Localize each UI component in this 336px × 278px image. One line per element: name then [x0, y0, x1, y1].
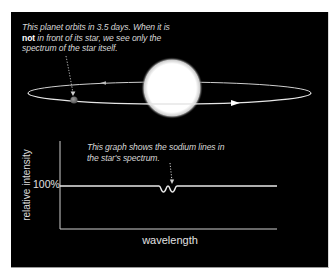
- orbit-arrow-back-icon: [100, 81, 106, 84]
- annotation-line: not in front of its star, we see only th…: [22, 33, 182, 44]
- annotation-line: This planet orbits in 3.5 days. When it …: [22, 22, 182, 33]
- annotation-line: spectrum of the star itself.: [22, 43, 182, 54]
- planet-orbit-annotation: This planet orbits in 3.5 days. When it …: [22, 22, 182, 54]
- y-axis-label: relative intensity: [21, 149, 32, 221]
- orbit-arrow-front-icon: [231, 100, 240, 106]
- y-tick-100-percent: 100%: [33, 178, 60, 190]
- annotation-line: This graph shows the sodium lines in: [87, 142, 237, 153]
- planet-pointer-arrow: [66, 56, 73, 93]
- emphasis-not: not: [22, 33, 35, 43]
- planet: [70, 96, 77, 103]
- annotation-line: the star's spectrum.: [87, 153, 237, 164]
- star: [141, 57, 203, 119]
- spectrum-line: [60, 186, 277, 192]
- sodium-lines-annotation: This graph shows the sodium lines in the…: [87, 142, 237, 163]
- annotation-text: in front of its star, we see only the: [35, 33, 161, 43]
- x-axis-label: wavelength: [0, 234, 336, 246]
- sodium-pointer-arrow: [170, 163, 172, 181]
